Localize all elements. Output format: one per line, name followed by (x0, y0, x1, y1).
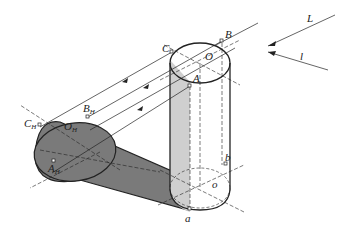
label-O-H: OH (64, 120, 78, 134)
cylinder-shadow-diagram: L l O B C A b o a BH CH AH OH (0, 0, 342, 229)
label-O: O (205, 50, 213, 62)
diagram-canvas: L l O B C A b o a BH CH AH OH (0, 0, 342, 229)
label-o: o (212, 178, 218, 190)
label-B: B (225, 28, 232, 40)
label-b: b (225, 151, 231, 163)
label-A: A (192, 72, 200, 84)
label-l: l (300, 50, 303, 62)
label-B-H: BH (83, 102, 96, 116)
label-a: a (185, 212, 191, 224)
label-C-H: CH (24, 117, 37, 131)
label-L: L (306, 12, 313, 24)
label-C: C (162, 42, 170, 54)
